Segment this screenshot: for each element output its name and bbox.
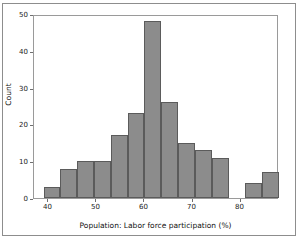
histogram-bar	[144, 21, 161, 198]
x-tick-label: 80	[228, 203, 252, 211]
y-tick-label: 0	[0, 196, 28, 203]
histogram-bar	[77, 161, 94, 198]
histogram-bar	[94, 161, 111, 198]
histogram-bar	[178, 143, 195, 198]
x-tick-label: 60	[131, 203, 155, 211]
histogram-bar	[262, 172, 279, 198]
y-tick-label: 50	[0, 12, 28, 19]
histogram-bar	[128, 113, 145, 198]
x-tick-label: 40	[35, 203, 59, 211]
histogram-bar	[44, 187, 61, 198]
y-tick-label: 10	[0, 159, 28, 166]
x-tick-mark	[143, 199, 144, 202]
histogram-screenshot: 01020304050 4050607080 Count Population:…	[0, 0, 299, 239]
histogram-bar	[111, 135, 128, 198]
y-tick-label: 20	[0, 122, 28, 129]
x-tick-mark	[192, 199, 193, 202]
y-axis-label: Count	[4, 70, 13, 120]
x-axis-label: Population: Labor force participation (%…	[33, 221, 278, 230]
axes-container: 01020304050 4050607080 Count Population:…	[0, 0, 299, 239]
x-tick-mark	[47, 199, 48, 202]
histogram-bar	[195, 150, 212, 198]
histogram-bar	[161, 102, 178, 198]
plot-area	[33, 15, 278, 199]
y-tick-mark	[30, 199, 33, 200]
x-tick-mark	[95, 199, 96, 202]
histogram-bar	[212, 158, 229, 198]
x-tick-mark	[240, 199, 241, 202]
x-tick-label: 50	[83, 203, 107, 211]
y-tick-label: 40	[0, 48, 28, 55]
histogram-bar	[245, 183, 262, 198]
histogram-bar	[60, 169, 77, 198]
bars-layer	[34, 16, 277, 198]
x-tick-label: 70	[180, 203, 204, 211]
